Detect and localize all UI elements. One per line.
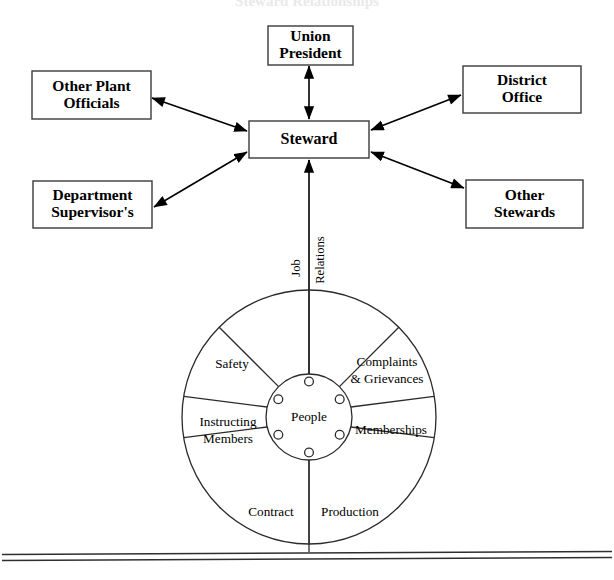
node-steward[interactable]: Steward xyxy=(249,121,369,158)
axis-label-job: Job xyxy=(289,259,303,277)
node-union-president-label-line2: President xyxy=(279,44,342,61)
sector-instructing-members-line1: Instructing xyxy=(199,414,257,429)
node-department-supervisors[interactable]: Department Supervisor's xyxy=(33,181,152,228)
axis-label-relations: Relations xyxy=(313,236,327,284)
node-union-president-label-line1: Union xyxy=(290,27,331,44)
hub-dot-lower-right xyxy=(335,430,344,439)
node-other-plant-officials[interactable]: Other Plant Officials xyxy=(32,71,151,119)
wheel-hub-label: People xyxy=(291,409,327,424)
node-department-supervisors-label-line1: Department xyxy=(52,186,133,203)
connector-steward-other-stewards xyxy=(371,152,464,188)
hub-dot-upper-left xyxy=(274,395,283,404)
node-district-office[interactable]: District Office xyxy=(463,66,581,113)
wheel-spoke-2 xyxy=(351,396,434,407)
hub-dot-upper-right xyxy=(335,395,344,404)
sector-instructing-members-line2: Members xyxy=(203,431,253,446)
connector-steward-department-supervisors xyxy=(154,152,247,207)
node-district-office-label-line2: Office xyxy=(502,88,543,105)
connector-steward-district-office xyxy=(371,95,461,130)
page-title-fragment: Steward Relationships xyxy=(235,0,379,9)
hub-dot-bottom xyxy=(305,448,314,457)
sector-contract-line1: Contract xyxy=(248,504,294,519)
wheel-sector-production[interactable]: Production xyxy=(321,504,379,519)
wheel-sector-safety[interactable]: Safety xyxy=(215,356,249,371)
wheel-spoke-5 xyxy=(184,396,267,407)
diagram-root: Steward Relationships Union President Ot… xyxy=(0,0,614,580)
hub-dot-top xyxy=(305,377,314,386)
hub-dot-lower-left xyxy=(274,430,283,439)
node-steward-label: Steward xyxy=(281,130,338,147)
footer-rule-lower xyxy=(2,558,612,561)
connector-steward-other-plant-officials xyxy=(152,98,247,131)
wheel-sector-memberships[interactable]: Memberships xyxy=(355,422,427,437)
node-other-plant-officials-label-line2: Officials xyxy=(64,94,120,111)
sector-complaints-grievances-line1: Complaints xyxy=(357,354,418,369)
sector-production-line1: Production xyxy=(321,504,379,519)
footer-double-rule xyxy=(2,552,612,561)
steward-relationships-diagram: Steward Relationships Union President Ot… xyxy=(0,0,614,580)
node-union-president[interactable]: Union President xyxy=(268,26,353,65)
node-other-stewards-label-line2: Stewards xyxy=(494,203,555,220)
wheel-sector-contract[interactable]: Contract xyxy=(248,504,294,519)
wheel-sector-complaints-grievances[interactable]: Complaints & Grievances xyxy=(351,354,424,386)
job-relations-axis: Job Relations xyxy=(289,160,327,552)
node-other-stewards[interactable]: Other Stewards xyxy=(466,180,583,228)
node-district-office-label-line1: District xyxy=(497,71,548,88)
node-department-supervisors-label-line2: Supervisor's xyxy=(51,203,134,220)
node-other-plant-officials-label-line1: Other Plant xyxy=(52,77,131,94)
sector-memberships-line1: Memberships xyxy=(355,422,427,437)
sector-safety-line1: Safety xyxy=(215,356,249,371)
node-other-stewards-label-line1: Other xyxy=(505,186,545,203)
footer-rule-upper xyxy=(2,552,612,555)
sector-complaints-grievances-line2: & Grievances xyxy=(351,371,424,386)
